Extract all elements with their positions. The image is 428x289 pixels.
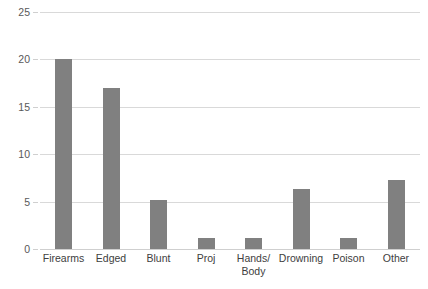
bar-drowning bbox=[293, 189, 310, 249]
y-tick-label-10: 10 bbox=[0, 149, 30, 159]
y-tick-mark bbox=[33, 59, 38, 60]
y-tick-mark bbox=[33, 202, 38, 203]
y-tick-mark bbox=[33, 107, 38, 108]
y-tick-label-0: 0 bbox=[0, 244, 30, 254]
y-tick-mark bbox=[33, 249, 38, 250]
bars-layer bbox=[40, 12, 420, 249]
bar-blunt bbox=[150, 200, 167, 249]
y-tick-label-20: 20 bbox=[0, 54, 30, 64]
x-axis-labels: Firearms Edged Blunt Proj Hands/ Body Dr… bbox=[40, 252, 420, 288]
x-label-other: Other bbox=[364, 252, 428, 265]
bar-firearms bbox=[55, 59, 72, 249]
y-tick-mark bbox=[33, 154, 38, 155]
axis-baseline bbox=[40, 249, 420, 250]
bar-poison bbox=[340, 238, 357, 249]
y-tick-label-5: 5 bbox=[0, 197, 30, 207]
bar-chart: 25 20 15 10 5 0 Firearms Edged Blunt Pro… bbox=[0, 0, 428, 289]
bar-edged bbox=[103, 88, 120, 249]
y-tick-mark bbox=[33, 12, 38, 13]
bar-proj bbox=[198, 238, 215, 249]
y-tick-label-25: 25 bbox=[0, 7, 30, 17]
y-tick-label-15: 15 bbox=[0, 102, 30, 112]
bar-hands-body bbox=[245, 238, 262, 249]
bar-other bbox=[388, 180, 405, 249]
